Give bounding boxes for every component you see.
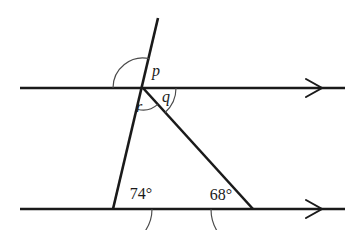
angle-label-r: r xyxy=(136,98,143,115)
angle-label-68: 68° xyxy=(210,186,232,203)
angle-arc-74 xyxy=(122,209,152,230)
angle-label-q: q xyxy=(162,88,170,106)
angle-label-74: 74° xyxy=(130,185,152,202)
right-leg-line xyxy=(143,88,253,209)
angle-label-p: p xyxy=(151,62,160,80)
angle-arc-68 xyxy=(211,209,225,230)
geometry-diagram: p q r 74° 68° xyxy=(0,0,361,230)
geometry-canvas: p q r 74° 68° xyxy=(0,0,361,230)
